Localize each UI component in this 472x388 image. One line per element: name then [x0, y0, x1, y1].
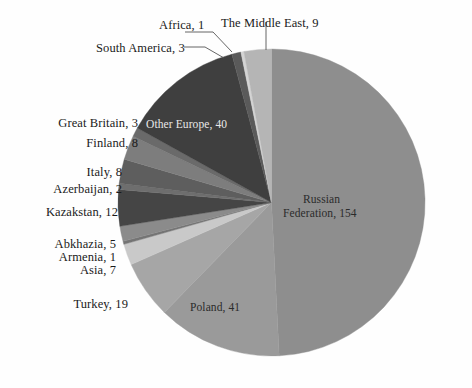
callout-middle-east: The Middle East, 9 — [221, 16, 319, 30]
callout-finland: Finland, 8 — [0, 136, 138, 150]
callout-asia: Asia, 7 — [0, 263, 116, 277]
callout-azerbaijan: Azerbaijan, 2 — [0, 182, 122, 196]
inner-label-other-europe: Other Europe, 40 — [146, 118, 227, 132]
callout-south-america: South America, 3 — [96, 41, 185, 55]
chart-page: Africa, 1 The Middle East, 9 South Ameri… — [0, 0, 472, 388]
pie-slice-russian-federation[interactable] — [272, 49, 426, 356]
scan-bleed-text — [42, 357, 46, 372]
inner-label-russian-federation-line1: Russian — [303, 193, 340, 207]
inner-label-poland: Poland, 41 — [190, 301, 240, 315]
callout-kazakstan: Kazakstan, 12 — [0, 205, 118, 219]
leader-line-south-america — [184, 47, 224, 58]
callout-italy: Italy, 8 — [0, 165, 122, 179]
callout-africa: Africa, 1 — [159, 18, 204, 32]
callout-abkhazia: Abkhazia, 5 — [0, 237, 116, 251]
pie-slices-group — [118, 49, 425, 356]
callout-great-britain: Great Britain, 3 — [0, 116, 138, 130]
callout-armenia: Armenia, 1 — [0, 250, 116, 264]
callout-turkey: Turkey, 19 — [0, 297, 128, 311]
inner-label-russian-federation-line2: Federation, 154 — [283, 207, 357, 221]
